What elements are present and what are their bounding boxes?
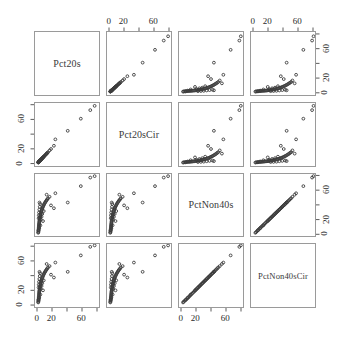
- tick-label-top-0: 0: [250, 17, 255, 26]
- tick-label-bottom-60: 60: [77, 314, 86, 323]
- scatter-points: [107, 32, 171, 95]
- scatterplot-matrix: Pct20sPct20sCirPctNon40sPctNon40sCir 020…: [0, 0, 348, 347]
- tick-label-right-60: 60: [322, 44, 331, 53]
- scatter-panel-pctnon40scir-vs-pct20scir: [250, 102, 316, 167]
- scatter-points: [35, 103, 99, 166]
- diagonal-panel-pctnon40scir: PctNon40sCir: [250, 243, 316, 308]
- tick-label-bottom-0: 0: [34, 314, 39, 323]
- tick-label-bottom-0: 0: [178, 314, 183, 323]
- tick-label-top-60: 60: [293, 17, 302, 26]
- scatter-panel-pct20s-vs-pctnon40scir: [34, 243, 100, 308]
- tick-label-left-0: 0: [14, 302, 23, 307]
- tick-label-left-20: 20: [17, 285, 26, 294]
- scatter-points: [251, 32, 315, 95]
- scatter-panel-pct20scir-vs-pctnon40scir: [106, 243, 172, 308]
- scatter-points: [251, 174, 315, 237]
- diagonal-panel-pct20scir: Pct20sCir: [106, 102, 172, 167]
- diagonal-panel-pctnon40s: PctNon40s: [178, 173, 244, 238]
- variable-label: PctNon40sCir: [251, 244, 315, 307]
- scatter-points: [35, 244, 99, 307]
- scatter-points: [35, 174, 99, 237]
- tick-label-left-0: 0: [14, 161, 23, 166]
- variable-label: Pct20s: [35, 32, 99, 95]
- scatter-panel-pctnon40s-vs-pct20s: [178, 31, 244, 96]
- scatter-panel-pct20scir-vs-pct20s: [106, 31, 172, 96]
- tick-label-bottom-60: 60: [221, 314, 230, 323]
- scatter-panel-pct20scir-vs-pctnon40s: [106, 173, 172, 238]
- tick-label-left-60: 60: [17, 114, 26, 123]
- tick-label-bottom-20: 20: [191, 314, 200, 323]
- scatter-panel-pctnon40s-vs-pctnon40scir: [178, 243, 244, 308]
- tick-label-right-0: 0: [319, 90, 328, 95]
- pairs-matrix-grid: Pct20sPct20sCirPctNon40sPctNon40sCir: [34, 31, 316, 308]
- tick-label-right-60: 60: [322, 185, 331, 194]
- scatter-points: [107, 244, 171, 307]
- scatter-panel-pctnon40scir-vs-pct20s: [250, 31, 316, 96]
- tick-label-left-20: 20: [17, 144, 26, 153]
- tick-label-top-0: 0: [106, 17, 111, 26]
- tick-label-right-20: 20: [322, 215, 331, 224]
- tick-label-top-20: 20: [263, 17, 272, 26]
- scatter-panel-pct20s-vs-pctnon40s: [34, 173, 100, 238]
- scatter-points: [179, 244, 243, 307]
- variable-label: Pct20sCir: [107, 103, 171, 166]
- scatter-points: [251, 103, 315, 166]
- tick-label-left-60: 60: [17, 256, 26, 265]
- tick-label-top-20: 20: [119, 17, 128, 26]
- tick-label-right-0: 0: [319, 232, 328, 237]
- scatter-panel-pctnon40scir-vs-pctnon40s: [250, 173, 316, 238]
- scatter-panel-pctnon40s-vs-pct20scir: [178, 102, 244, 167]
- scatter-panel-pct20s-vs-pct20scir: [34, 102, 100, 167]
- variable-label: PctNon40s: [179, 174, 243, 237]
- tick-label-bottom-20: 20: [47, 314, 56, 323]
- scatter-points: [107, 174, 171, 237]
- scatter-points: [179, 32, 243, 95]
- tick-label-right-20: 20: [322, 73, 331, 82]
- diagonal-panel-pct20s: Pct20s: [34, 31, 100, 96]
- tick-label-top-60: 60: [149, 17, 158, 26]
- scatter-points: [179, 103, 243, 166]
